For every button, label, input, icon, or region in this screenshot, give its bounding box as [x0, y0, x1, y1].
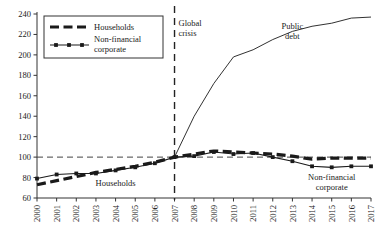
- x-tick-label: 2002: [71, 205, 81, 222]
- series-marker: [133, 165, 137, 169]
- series-marker: [173, 155, 177, 159]
- series-marker: [153, 161, 157, 165]
- legend-marker: [54, 43, 58, 47]
- series-marker: [310, 164, 314, 168]
- non-financial-corporate-inline-label: corporate: [316, 182, 348, 192]
- x-tick-label: 2016: [347, 205, 357, 222]
- global-crisis-label: crisis: [179, 28, 197, 38]
- series-marker: [192, 154, 196, 158]
- y-tick-label: 140: [18, 111, 31, 121]
- series-marker: [330, 165, 334, 169]
- y-tick-label: 60: [23, 193, 32, 203]
- series-marker: [74, 172, 78, 176]
- x-tick-label: 2017: [366, 205, 376, 222]
- series-marker: [369, 164, 373, 168]
- line-chart: 6080100120140160180200220240200020012002…: [0, 0, 379, 245]
- y-tick-label: 180: [18, 70, 31, 80]
- x-tick-label: 2013: [288, 205, 298, 222]
- public-debt-label: Public: [282, 21, 304, 31]
- chart-container: 6080100120140160180200220240200020012002…: [0, 0, 379, 245]
- non-financial-corporate-inline-label: Non-financial: [308, 172, 356, 182]
- y-tick-label: 100: [18, 152, 31, 162]
- series-marker: [55, 173, 59, 177]
- x-tick-label: 2004: [111, 204, 121, 222]
- series-marker: [291, 159, 295, 163]
- y-tick-label: 220: [18, 29, 31, 39]
- x-tick-label: 2010: [229, 205, 239, 222]
- series-marker: [212, 150, 216, 154]
- series-marker: [35, 177, 39, 181]
- x-tick-label: 2009: [209, 205, 219, 222]
- y-tick-label: 120: [18, 132, 31, 142]
- y-tick-label: 240: [18, 9, 31, 19]
- series-marker: [114, 169, 118, 173]
- x-tick-label: 2008: [189, 205, 199, 222]
- x-tick-label: 2000: [32, 205, 42, 222]
- series-marker: [232, 152, 236, 156]
- series-line-0: [175, 17, 371, 157]
- households-inline-label: Households: [96, 178, 136, 188]
- y-tick-label: 80: [23, 173, 32, 183]
- x-tick-label: 2001: [52, 205, 62, 222]
- legend-label-households: Households: [94, 22, 134, 32]
- legend-marker: [80, 43, 84, 47]
- legend-marker: [67, 43, 71, 47]
- global-crisis-label: Global: [179, 18, 203, 28]
- x-tick-label: 2011: [248, 205, 258, 222]
- x-tick-label: 2014: [307, 204, 317, 222]
- legend-label-nfc: Non-financial: [94, 34, 142, 44]
- x-tick-label: 2015: [327, 205, 337, 222]
- x-tick-label: 2006: [150, 205, 160, 222]
- series-marker: [271, 155, 275, 159]
- legend-label-nfc: corporate: [94, 44, 126, 54]
- y-tick-label: 160: [18, 91, 31, 101]
- series-marker: [349, 164, 353, 168]
- x-tick-label: 2005: [130, 205, 140, 222]
- y-tick-label: 200: [18, 50, 31, 60]
- series-marker: [94, 172, 98, 176]
- x-tick-label: 2007: [170, 205, 180, 222]
- series-marker: [251, 151, 255, 155]
- public-debt-label: debt: [285, 31, 300, 41]
- x-tick-label: 2012: [268, 205, 278, 222]
- x-tick-label: 2003: [91, 205, 101, 222]
